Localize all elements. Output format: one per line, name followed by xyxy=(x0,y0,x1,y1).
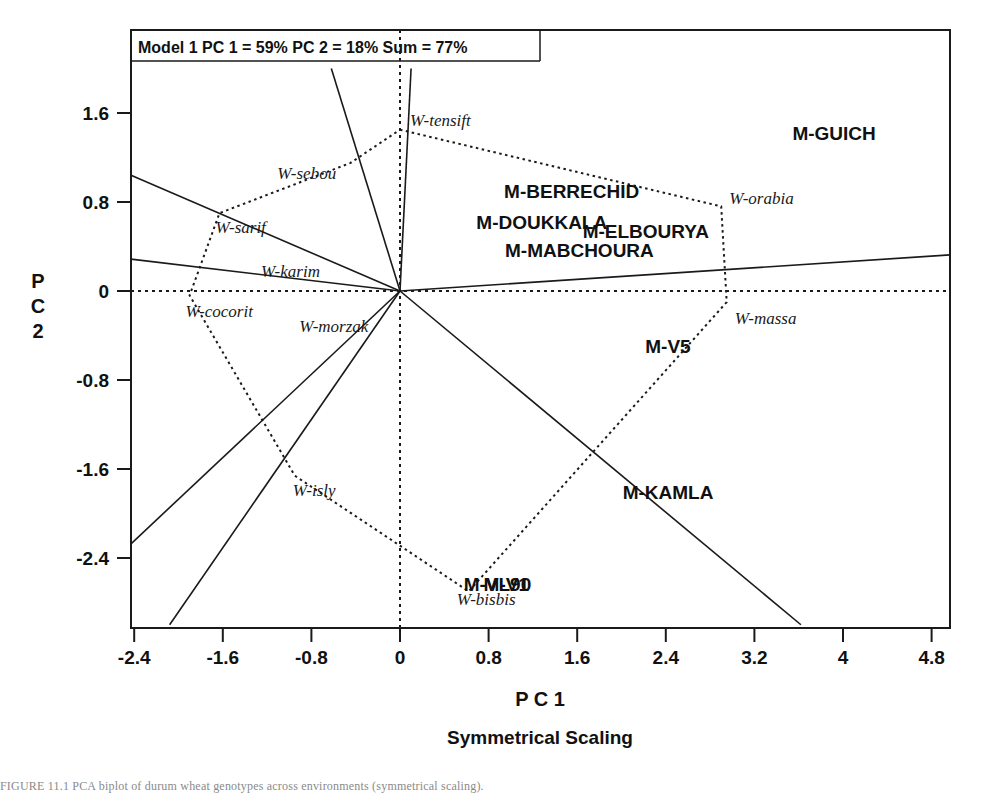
y-axis-title-line-0: P xyxy=(31,270,44,292)
x-tick-label-1: -1.6 xyxy=(206,647,239,668)
y-tick-label-4: -1.6 xyxy=(76,459,109,480)
y-tick-label-5: -2.4 xyxy=(76,548,109,569)
convex-hull-polygon xyxy=(190,130,727,592)
model-title: Model 1 PC 1 = 59% PC 2 = 18% Sum = 77% xyxy=(138,39,467,56)
x-tick-label-9: 4.8 xyxy=(918,647,944,668)
variable-label-w-karim: W-karim xyxy=(261,262,320,281)
variable-label-w-massa: W-massa xyxy=(735,309,797,328)
y-tick-label-1: 0.8 xyxy=(83,192,109,213)
x-tick-label-3: 0 xyxy=(395,647,406,668)
variable-label-w-cocorit: W-cocorit xyxy=(186,302,255,321)
variable-label-w-isly: W-isly xyxy=(293,481,336,500)
biplot-canvas: Model 1 PC 1 = 59% PC 2 = 18% Sum = 77% … xyxy=(0,0,981,794)
ray-to-upper-steep-b xyxy=(400,69,411,292)
variable-label-w-sarif: W-sarif xyxy=(215,218,268,237)
variable-vector-rays xyxy=(131,69,950,625)
variable-label-w-sebou: W-sebou xyxy=(277,164,336,183)
variable-label-w-morzak: W-morzak xyxy=(299,317,369,336)
variable-label-w-tensift: W-tensift xyxy=(410,111,472,130)
ray-to-lower-left-b xyxy=(170,291,400,625)
x-tick-label-2: -0.8 xyxy=(295,647,328,668)
site-label-m-v5: M-V5 xyxy=(645,336,691,357)
x-tick-label-8: 4 xyxy=(838,647,849,668)
x-tick-label-0: -2.4 xyxy=(118,647,151,668)
y-axis-title-line-1: C xyxy=(31,295,45,317)
x-tick-label-5: 1.6 xyxy=(564,647,590,668)
variable-label-w-orabia: W-orabia xyxy=(729,189,794,208)
x-tick-label-4: 0.8 xyxy=(475,647,501,668)
y-tick-label-2: 0 xyxy=(98,281,109,302)
site-label-m-kamla: M-KAMLA xyxy=(623,482,714,503)
y-tick-label-0: 1.6 xyxy=(83,103,109,124)
x-axis-title: P C 1 xyxy=(515,688,565,710)
site-label-m-elbourya: M-ELBOURYA xyxy=(583,221,710,242)
site-label-m-berrechid: M-BERRECHID xyxy=(504,181,639,202)
y-axis-ticks: 1.60.80-0.8-1.6-2.4 xyxy=(76,103,131,569)
y-tick-label-3: -0.8 xyxy=(76,370,109,391)
ray-to-lower-right xyxy=(400,291,801,625)
x-tick-label-6: 2.4 xyxy=(653,647,680,668)
x-tick-label-7: 3.2 xyxy=(741,647,767,668)
ray-to-right-shallow xyxy=(400,255,950,291)
plot-subtitle: Symmetrical Scaling xyxy=(447,727,633,748)
plot-frame xyxy=(131,30,950,628)
x-axis-ticks: -2.4-1.6-0.800.81.62.43.244.8 xyxy=(118,628,945,668)
variable-labels: W-tensiftW-sebouW-sarifW-karimW-cocoritW… xyxy=(186,111,797,610)
hull-outline xyxy=(190,130,727,592)
site-label-m-mabchoura: M-MABCHOURA xyxy=(505,240,654,261)
site-label-m-v1: M-V1 xyxy=(484,574,530,595)
ray-to-upper-steep-a xyxy=(331,69,400,292)
pca-biplot-figure: Model 1 PC 1 = 59% PC 2 = 18% Sum = 77% … xyxy=(0,0,981,794)
site-label-m-guich: M-GUICH xyxy=(792,123,875,144)
figure-caption: FIGURE 11.1 PCA biplot of durum wheat ge… xyxy=(0,779,981,794)
y-axis-title-line-2: 2 xyxy=(32,320,43,342)
